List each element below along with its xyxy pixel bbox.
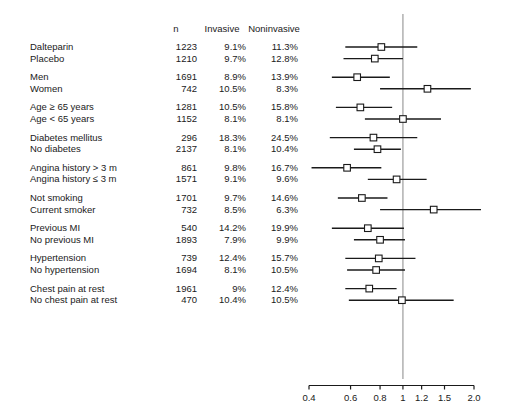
row-invasive: 8.5% <box>202 203 246 217</box>
point-estimate-marker <box>354 74 361 81</box>
forest-row-marker <box>365 116 441 123</box>
row-noninvasive: 9.9% <box>250 233 298 247</box>
table-row: Current smoker7328.5%6.3% <box>0 203 300 217</box>
row-invasive: 10.5% <box>202 82 246 96</box>
forest-row-marker <box>343 55 402 62</box>
header-noninvasive: Noninvasive <box>246 22 302 36</box>
row-n: 470 <box>155 293 197 307</box>
row-n: 1152 <box>155 112 197 126</box>
row-noninvasive: 12.8% <box>250 52 298 66</box>
point-estimate-marker <box>365 225 372 232</box>
forest-row-marker <box>338 195 388 202</box>
point-estimate-marker <box>378 44 385 51</box>
forest-plot-figure: n Invasive Noninvasive Dalteparin12239.1… <box>0 0 506 419</box>
row-label: Placebo <box>30 52 64 66</box>
header-n: n <box>155 22 197 36</box>
x-axis-tick-label: 1.5 <box>438 392 451 403</box>
table-row: No diabetes21378.1%10.4% <box>0 142 300 156</box>
row-label: No diabetes <box>30 142 81 156</box>
row-label: No previous MI <box>30 233 94 247</box>
row-noninvasive: 10.5% <box>250 263 298 277</box>
row-label: Current smoker <box>30 203 95 217</box>
forest-row-marker <box>347 267 405 274</box>
row-label: No chest pain at rest <box>30 293 117 307</box>
forest-row-marker <box>345 255 415 262</box>
x-axis-tick-label: 1 <box>400 392 405 403</box>
forest-row-marker <box>368 176 427 183</box>
row-invasive: 8.1% <box>202 142 246 156</box>
x-axis-tick-label: 1.2 <box>415 392 428 403</box>
forest-row-marker <box>354 146 401 153</box>
table-header-row: n Invasive Noninvasive <box>0 22 300 36</box>
row-invasive: 8.1% <box>202 112 246 126</box>
row-noninvasive: 10.5% <box>250 293 298 307</box>
forest-row-marker <box>354 237 405 244</box>
forest-row-marker <box>332 225 404 232</box>
row-n: 1694 <box>155 263 197 277</box>
forest-row-marker <box>332 74 390 81</box>
table-row: Women74210.5%8.3% <box>0 82 300 96</box>
row-invasive: 10.4% <box>202 293 246 307</box>
table-row: No previous MI18937.9%9.9% <box>0 233 300 247</box>
row-invasive: 9.7% <box>202 52 246 66</box>
x-axis-tick-label: 0.8 <box>373 392 386 403</box>
forest-row-marker <box>312 165 382 172</box>
point-estimate-marker <box>357 104 364 111</box>
table-row: No hypertension16948.1%10.5% <box>0 263 300 277</box>
table-row: Age < 65 years11528.1%8.1% <box>0 112 300 126</box>
row-n: 2137 <box>155 142 197 156</box>
row-invasive: 8.1% <box>202 263 246 277</box>
row-noninvasive: 8.3% <box>250 82 298 96</box>
point-estimate-marker <box>393 176 400 183</box>
point-estimate-marker <box>424 86 431 93</box>
row-n: 742 <box>155 82 197 96</box>
row-n: 1571 <box>155 172 197 186</box>
table-row: Angina history ≤ 3 m15719.1%9.6% <box>0 172 300 186</box>
row-noninvasive: 9.6% <box>250 172 298 186</box>
header-invasive: Invasive <box>198 22 246 36</box>
row-invasive: 7.9% <box>202 233 246 247</box>
point-estimate-marker <box>344 165 351 172</box>
row-label: Age < 65 years <box>30 112 94 126</box>
row-n: 732 <box>155 203 197 217</box>
forest-row-marker <box>380 206 481 213</box>
forest-row-marker <box>349 297 454 304</box>
table-row: No chest pain at rest47010.4%10.5% <box>0 293 300 307</box>
x-axis-tick-label: 0.4 <box>302 392 315 403</box>
point-estimate-marker <box>370 134 377 141</box>
row-noninvasive: 8.1% <box>250 112 298 126</box>
row-label: No hypertension <box>30 263 99 277</box>
point-estimate-marker <box>400 116 407 123</box>
row-label: Women <box>30 82 63 96</box>
point-estimate-marker <box>399 297 406 304</box>
point-estimate-marker <box>366 285 373 292</box>
point-estimate-marker <box>372 55 379 62</box>
row-noninvasive: 6.3% <box>250 203 298 217</box>
row-n: 1210 <box>155 52 197 66</box>
row-n: 1893 <box>155 233 197 247</box>
forest-row-marker <box>345 44 417 51</box>
forest-row-marker <box>345 285 396 292</box>
table-row: Placebo12109.7%12.8% <box>0 52 300 66</box>
point-estimate-marker <box>375 255 382 262</box>
forest-row-marker <box>330 134 417 141</box>
row-invasive: 9.1% <box>202 172 246 186</box>
row-label: Angina history ≤ 3 m <box>30 172 117 186</box>
x-axis-tick-label: 2.0 <box>467 392 480 403</box>
x-axis-tick-label: 0.6 <box>344 392 357 403</box>
point-estimate-marker <box>359 195 366 202</box>
point-estimate-marker <box>430 206 437 213</box>
statistics-table: n Invasive Noninvasive Dalteparin12239.1… <box>0 0 300 419</box>
forest-row-marker <box>336 104 392 111</box>
point-estimate-marker <box>373 267 380 274</box>
row-noninvasive: 10.4% <box>250 142 298 156</box>
point-estimate-marker <box>377 237 384 244</box>
forest-row-marker <box>380 86 471 93</box>
point-estimate-marker <box>374 146 381 153</box>
